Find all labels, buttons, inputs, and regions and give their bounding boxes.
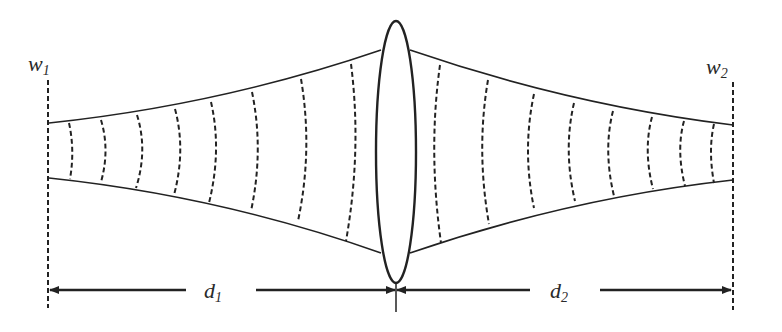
beam-lens-diagram <box>0 0 782 332</box>
label-d2-base: d <box>550 278 561 303</box>
label-w1-base: w <box>28 51 43 76</box>
right-wavefronts <box>434 65 714 243</box>
label-d2-sub: 2 <box>561 290 568 305</box>
right-beam-bottom-edge <box>410 180 733 253</box>
left-wavefronts <box>69 64 355 241</box>
left-beam-bottom-edge <box>49 178 381 253</box>
label-d1-base: d <box>204 278 215 303</box>
label-w2-sub: 2 <box>721 66 728 81</box>
label-d1: d1 <box>204 280 222 305</box>
label-w2: w2 <box>706 56 728 81</box>
label-d1-sub: 1 <box>215 290 222 305</box>
lens <box>376 21 416 283</box>
label-w2-base: w <box>706 54 721 79</box>
left-beam-top-edge <box>49 50 381 123</box>
label-w1: w1 <box>28 53 50 78</box>
label-d2: d2 <box>550 280 568 305</box>
label-w1-sub: 1 <box>43 63 50 78</box>
